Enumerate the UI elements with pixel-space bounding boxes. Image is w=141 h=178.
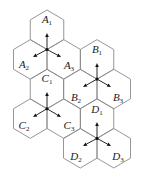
label-letter: A — [64, 59, 71, 71]
base-station-dot-a — [45, 48, 48, 51]
cell-label-b3: B3 — [113, 92, 123, 105]
arrowhead-icon — [95, 63, 99, 67]
cell-label-c2: C2 — [19, 120, 30, 133]
label-letter: D — [91, 103, 99, 115]
label-letter: A — [19, 58, 26, 70]
cell-label-c1: C1 — [42, 73, 53, 86]
cell-label-a2: A2 — [19, 59, 29, 72]
label-subscript: 1 — [49, 78, 53, 86]
label-subscript: 3 — [120, 156, 124, 164]
arrow-line-b3 — [97, 79, 108, 85]
arrow-line-c3 — [47, 109, 58, 115]
label-letter: B — [71, 91, 78, 103]
label-subscript: 2 — [26, 125, 30, 133]
label-subscript: 1 — [99, 49, 103, 57]
arrow-line-c2 — [36, 109, 47, 115]
cell-label-b1: B1 — [92, 44, 102, 57]
base-station-dot-b — [95, 78, 98, 81]
hex-cell-sector-diagram: A1A2A3B1B2B3C1C2C3D1D2D3 — [0, 0, 141, 178]
label-subscript: 2 — [78, 97, 82, 105]
label-letter: B — [92, 43, 99, 55]
cell-label-b2: B2 — [71, 92, 81, 105]
label-subscript: 3 — [71, 65, 75, 73]
label-letter: B — [113, 91, 120, 103]
cell-label-a3: A3 — [64, 60, 74, 73]
hex-grid — [14, 10, 131, 168]
label-subscript: 1 — [49, 19, 53, 27]
label-subscript: 3 — [120, 97, 124, 105]
base-station-dot-d — [95, 137, 98, 140]
cell-label-a1: A1 — [42, 14, 52, 27]
label-subscript: 3 — [71, 125, 75, 133]
arrowhead-icon — [95, 122, 99, 126]
arrowhead-icon — [45, 33, 49, 37]
cell-label-c3: C3 — [64, 120, 75, 133]
arrow-line-a2 — [37, 50, 47, 56]
arrow-line-b2 — [86, 79, 97, 85]
cell-label-d2: D2 — [70, 151, 81, 164]
label-letter: D — [112, 150, 120, 162]
arrow-line-d2 — [87, 138, 97, 144]
label-subscript: 2 — [26, 64, 30, 72]
arrow-line-d3 — [97, 138, 107, 144]
label-letter: A — [42, 13, 49, 25]
arrow-line-a3 — [47, 50, 57, 56]
label-subscript: 1 — [99, 109, 103, 117]
label-subscript: 2 — [78, 156, 82, 164]
cell-label-d3: D3 — [112, 151, 123, 164]
label-letter: D — [70, 150, 78, 162]
base-station-dot-c — [45, 107, 48, 110]
arrowhead-icon — [45, 92, 49, 96]
cell-label-d1: D1 — [91, 104, 102, 117]
